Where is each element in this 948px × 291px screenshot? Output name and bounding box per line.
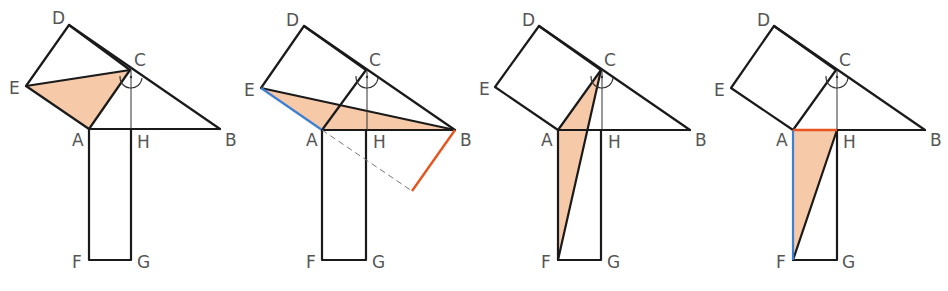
highlight-height-from-b: [412, 130, 455, 191]
label-a: A: [306, 130, 318, 150]
label-b: B: [695, 130, 707, 150]
label-e: E: [9, 78, 20, 98]
label-f: F: [72, 252, 82, 272]
label-d: D: [286, 10, 299, 30]
label-h: H: [843, 132, 856, 152]
label-b: B: [225, 130, 237, 150]
label-e: E: [244, 80, 255, 100]
label-b: B: [930, 130, 942, 150]
label-f: F: [306, 252, 316, 272]
panel-3: D C E A H B F G: [479, 10, 707, 272]
label-e: E: [714, 80, 725, 100]
label-b: B: [460, 130, 472, 150]
label-a: A: [72, 130, 84, 150]
label-d: D: [52, 8, 65, 28]
label-d: D: [522, 10, 535, 30]
label-c: C: [369, 50, 381, 70]
label-h: H: [608, 132, 621, 152]
rectangle-afgh: [89, 129, 131, 260]
label-h: H: [137, 132, 150, 152]
panel-2: D C E A H B F G: [244, 10, 472, 272]
label-g: G: [372, 252, 385, 272]
rectangle-afgh: [322, 130, 366, 260]
label-d: D: [757, 10, 770, 30]
label-h: H: [373, 132, 386, 152]
square-on-ac: [731, 26, 836, 130]
panel-4: D C E A H B F G: [714, 10, 942, 272]
label-g: G: [842, 252, 855, 272]
label-c: C: [839, 50, 851, 70]
label-a: A: [541, 130, 553, 150]
label-g: G: [137, 252, 150, 272]
label-g: G: [607, 252, 620, 272]
label-e: E: [479, 79, 490, 99]
label-a: A: [776, 130, 788, 150]
label-f: F: [541, 252, 551, 272]
panel-1: D C E A H B F G: [9, 8, 237, 272]
label-c: C: [604, 50, 616, 70]
label-f: F: [776, 252, 786, 272]
euclid-proof-figure: D C E A H B F G D C E A H B F G: [0, 0, 948, 291]
label-c: C: [134, 50, 146, 70]
